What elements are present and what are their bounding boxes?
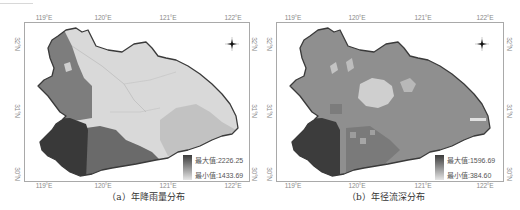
lon-tick-bottom: 122°E — [477, 182, 494, 189]
lon-tick-bottom: 121°E — [160, 182, 177, 189]
lon-tick-bottom: 121°E — [415, 182, 432, 189]
legend-min-label: 最小值:384.60 — [447, 170, 491, 180]
lon-tick-bottom: 119°E — [285, 182, 301, 189]
lon-tick-bottom: 120°E — [95, 182, 112, 189]
lon-tick-bottom: 119°E — [36, 182, 52, 189]
compass-rose-icon — [225, 37, 239, 51]
panel-b-runoff-map: 119°E 120°E 121°E 122°E 32°N 31°N 30°N 3… — [260, 0, 520, 210]
legend-max-label: 最大值:1596.69 — [447, 155, 495, 165]
lon-tick-bottom: 120°E — [349, 182, 366, 189]
legend-color-ramp — [435, 155, 444, 180]
panel-caption: （b）年径流深分布 — [347, 190, 425, 203]
lon-tick-bottom: 122°E — [225, 182, 242, 189]
legend-color-ramp — [183, 155, 192, 180]
panel-caption: （a）年降雨量分布 — [107, 190, 184, 203]
compass-rose-icon — [475, 37, 489, 51]
legend-max-label: 最大值:2226.25 — [195, 155, 243, 165]
panel-a-rainfall-map: 119°E 120°E 121°E 122°E 32°N 31°N 30°N 3… — [0, 0, 260, 210]
legend-min-label: 最小值:1433.69 — [195, 170, 243, 180]
